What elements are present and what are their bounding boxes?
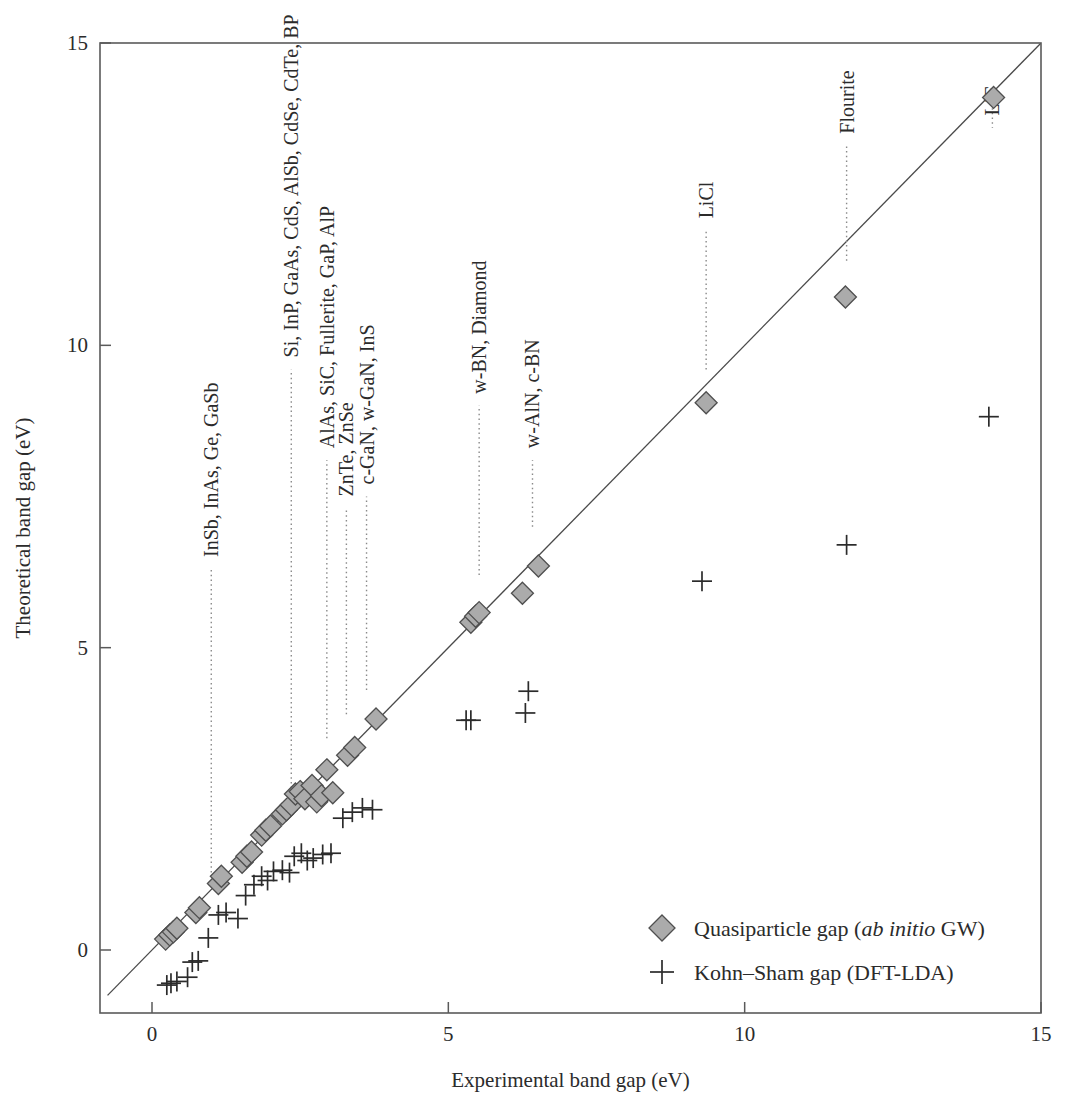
data-point-plus: [342, 802, 362, 822]
data-point-plus: [182, 952, 202, 972]
y-tick-label: 15: [67, 31, 88, 55]
annotation-5: c-GaN, w-GaN, InS: [356, 324, 378, 690]
annotation-1: InSb, InAs, Ge, GaSb: [200, 383, 222, 887]
data-point-plus: [979, 407, 999, 427]
data-point-diamond: [695, 392, 717, 414]
data-point-plus: [303, 848, 323, 868]
legend-label: Quasiparticle gap (ab initio GW): [694, 916, 985, 941]
annotation-label: Si, InP, GaAs, CdS, AlSb, CdSe, CdTe, BP: [280, 14, 302, 357]
annotation-label: ZnTe, ZnSe: [335, 402, 357, 496]
data-point-diamond: [511, 582, 533, 604]
data-point-plus: [692, 571, 712, 591]
annotation-label: Flourite: [836, 70, 858, 133]
legend: Quasiparticle gap (ab initio GW)Kohn–Sha…: [649, 915, 985, 985]
annotation-8: LiCl: [695, 181, 717, 369]
data-point-plus: [161, 973, 181, 993]
data-point-plus: [313, 844, 333, 864]
data-point-plus: [258, 870, 278, 890]
x-axis-title: Experimental band gap (eV): [451, 1068, 690, 1092]
x-tick-label: 5: [443, 1022, 454, 1046]
data-point-diamond: [527, 555, 549, 577]
data-point-plus: [188, 951, 208, 971]
data-point-plus: [167, 971, 187, 991]
annotation-9: Flourite: [836, 70, 858, 260]
annotation-layer: InSb, InAs, Ge, GaSbSi, InP, GaAs, CdS, …: [200, 14, 1003, 886]
data-point-diamond: [365, 708, 387, 730]
legend-diamond-icon: [649, 915, 675, 941]
annotation-6: w-BN, Diamond: [468, 260, 490, 575]
y-tick-label: 10: [67, 333, 88, 357]
annotation-label: w-BN, Diamond: [468, 260, 490, 393]
data-point-plus: [236, 886, 256, 906]
x-axis: 051015Experimental band gap (eV): [147, 1002, 1052, 1092]
data-point-plus: [263, 861, 283, 881]
series-kohn-sham-gap: [157, 407, 999, 995]
annotation-7: w-AlN, c-BN: [521, 339, 543, 526]
data-point-plus: [837, 535, 857, 555]
legend-label: Kohn–Sham gap (DFT-LDA): [694, 960, 954, 985]
data-point-diamond: [316, 759, 338, 781]
data-point-plus: [178, 967, 198, 987]
data-point-plus: [362, 800, 382, 820]
y-axis: 051015Theoretical band gap (eV): [11, 31, 111, 962]
x-tick-label: 15: [1031, 1022, 1052, 1046]
data-point-plus: [352, 798, 372, 818]
data-point-diamond: [834, 286, 856, 308]
annotation-label: c-GaN, w-GaN, InS: [356, 324, 378, 484]
annotation-label: w-AlN, c-BN: [521, 339, 543, 448]
data-point-plus: [333, 808, 353, 828]
data-point-plus: [461, 710, 481, 730]
data-point-plus: [157, 975, 177, 995]
annotation-label: LiCl: [695, 181, 717, 218]
annotation-4: ZnTe, ZnSe: [335, 402, 357, 714]
legend-plus-icon: [650, 960, 674, 984]
data-point-plus: [515, 703, 535, 723]
data-point-plus: [518, 681, 538, 701]
band-gap-scatter-figure: InSb, InAs, Ge, GaSbSi, InP, GaAs, CdS, …: [0, 0, 1078, 1108]
chart-canvas: InSb, InAs, Ge, GaSbSi, InP, GaAs, CdS, …: [0, 0, 1078, 1108]
y-tick-label: 0: [78, 938, 89, 962]
data-point-plus: [228, 909, 248, 929]
x-tick-label: 10: [734, 1022, 755, 1046]
data-point-plus: [198, 928, 218, 948]
annotation-label: InSb, InAs, Ge, GaSb: [200, 383, 222, 557]
y-tick-label: 5: [78, 636, 89, 660]
data-point-plus: [321, 843, 341, 863]
y-axis-title: Theoretical band gap (eV): [11, 418, 35, 639]
legend-item-1: Quasiparticle gap (ab initio GW): [649, 915, 985, 941]
legend-item-2: Kohn–Sham gap (DFT-LDA): [650, 960, 954, 985]
annotation-2: Si, InP, GaAs, CdS, AlSb, CdSe, CdTe, BP: [280, 14, 302, 792]
x-tick-label: 0: [147, 1022, 158, 1046]
